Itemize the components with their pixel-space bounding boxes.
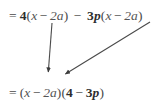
minus-sign-1-bottom: − <box>30 85 43 100</box>
term-2a-variable-bottom: a <box>50 85 57 100</box>
equals-sign-top: = <box>9 8 20 23</box>
minus-sign-1-top: − <box>37 8 50 23</box>
variable-p-top: p <box>94 8 101 23</box>
equation-line-top: =4(x−2a)−3p(x−2a) <box>9 8 143 23</box>
arrow-second-binomial <box>65 22 150 74</box>
minus-sign-2-top: − <box>111 8 124 23</box>
variable-p-bottom: p <box>93 85 100 100</box>
factoring-figure: =4(x−2a)−3p(x−2a) =(x−2a)(4−3p) <box>0 0 168 111</box>
term-2a-2-number-top: 2 <box>124 8 131 23</box>
minus-sign-middle-top: − <box>71 8 84 23</box>
minus-sign-2-bottom: − <box>73 85 86 100</box>
term-2a-1-variable-top: a <box>57 8 64 23</box>
close-paren-2-bottom: ) <box>99 85 104 100</box>
equals-sign-bottom: = <box>9 85 20 100</box>
term-2a-2-variable-top: a <box>131 8 138 23</box>
coefficient-4-top: 4 <box>20 8 27 23</box>
coefficient-3-bottom: 3 <box>86 85 93 100</box>
close-paren-1-top: ) <box>64 8 69 23</box>
close-paren-2-top: ) <box>138 8 143 23</box>
coefficient-4-bottom: 4 <box>66 85 73 100</box>
arrow-first-binomial <box>48 23 52 72</box>
coefficient-3-top: 3 <box>87 8 94 23</box>
term-2a-1-number-top: 2 <box>50 8 57 23</box>
equation-line-bottom: =(x−2a)(4−3p) <box>9 85 104 100</box>
term-2a-number-bottom: 2 <box>43 85 50 100</box>
